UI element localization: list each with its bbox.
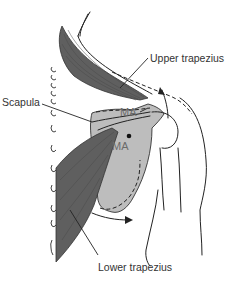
label-lower-trapezius: Lower trapezius xyxy=(98,261,172,273)
vertebral-column xyxy=(51,67,56,255)
label-scapula: Scapula xyxy=(2,96,40,108)
label-ma-lower: MA xyxy=(112,140,129,152)
axis-point xyxy=(127,134,132,139)
label-upper-trapezius: Upper trapezius xyxy=(150,52,224,64)
upper-trapezius-muscle xyxy=(59,26,148,100)
label-ma-upper: MA xyxy=(120,106,137,118)
lower-rotation-arrow xyxy=(92,213,133,224)
scapula-trapezius-diagram: Upper trapezius Scapula MA MA Lower trap… xyxy=(0,0,232,285)
